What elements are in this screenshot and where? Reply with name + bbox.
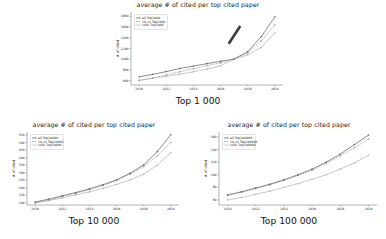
chart-panel-top100000: average # of cited per top cited paper 6… [196,122,382,225]
svg-text:2018: 2018 [336,207,344,211]
svg-text:2012: 2012 [252,207,260,211]
svg-text:# of cited: # of cited [116,40,120,58]
svg-text:2018: 2018 [244,87,252,91]
svg-text:800: 800 [123,68,129,72]
svg-text:100: 100 [211,173,217,177]
svg-text:100: 100 [19,201,25,205]
chart-caption-top100000: Top 100 000 [196,216,382,225]
svg-text:# of cited: # of cited [12,160,16,178]
svg-text:coor Top100000: coor Top100000 [230,143,256,147]
plot-area-top100000: 6080100120140160201020122014201620182020… [196,128,382,216]
svg-text:350: 350 [19,163,25,167]
svg-text:160: 160 [211,135,217,139]
plot-svg-top1000: 6008001000120014001600180020102012201420… [108,8,288,96]
plot-svg-top100000: 6080100120140160201020122014201620182020… [196,128,382,216]
plot-svg-top10000: 1001502002503003504004505005502010201220… [4,128,184,216]
chart-caption-top1000: Top 1 000 [108,96,288,105]
svg-text:1000: 1000 [121,58,129,62]
svg-text:2020: 2020 [271,87,279,91]
svg-text:140: 140 [211,148,217,152]
svg-text:2010: 2010 [135,87,143,91]
svg-text:coor Top10000: coor Top10000 [38,143,62,147]
svg-text:150: 150 [19,194,25,198]
svg-text:2014: 2014 [85,207,93,211]
svg-text:1600: 1600 [121,25,129,29]
svg-text:450: 450 [19,148,25,152]
svg-text:2012: 2012 [162,87,170,91]
svg-text:250: 250 [19,178,25,182]
svg-text:coor Top1000: coor Top1000 [142,23,163,27]
svg-text:2014: 2014 [189,87,197,91]
chart-panel-top1000: average # of cited per top cited paper 6… [108,2,288,105]
svg-text:1400: 1400 [121,36,129,40]
svg-text:2020: 2020 [365,207,373,211]
svg-text:2010: 2010 [31,207,39,211]
svg-text:2014: 2014 [280,207,288,211]
plot-area-top10000: 1001502002503003504004505005502010201220… [4,128,184,216]
svg-text:1800: 1800 [121,15,129,19]
svg-text:2012: 2012 [58,207,66,211]
svg-text:2016: 2016 [217,87,225,91]
svg-text:80: 80 [213,186,217,190]
svg-text:2016: 2016 [113,207,121,211]
svg-text:60: 60 [213,198,217,202]
plot-area-top1000: 6008001000120014001600180020102012201420… [108,8,288,96]
svg-text:300: 300 [19,171,25,175]
svg-text:200: 200 [19,186,25,190]
svg-text:550: 550 [19,133,25,137]
svg-text:# of cited: # of cited [204,160,208,178]
svg-text:120: 120 [211,161,217,165]
svg-text:2020: 2020 [167,207,175,211]
svg-text:500: 500 [19,141,25,145]
svg-text:600: 600 [123,79,129,83]
svg-text:2010: 2010 [224,207,232,211]
chart-caption-top10000: Top 10 000 [4,216,184,225]
svg-text:400: 400 [19,156,25,160]
svg-text:2018: 2018 [140,207,148,211]
svg-text:2016: 2016 [308,207,316,211]
svg-text:1200: 1200 [121,47,129,51]
chart-panel-top10000: average # of cited per top cited paper 1… [4,122,184,225]
